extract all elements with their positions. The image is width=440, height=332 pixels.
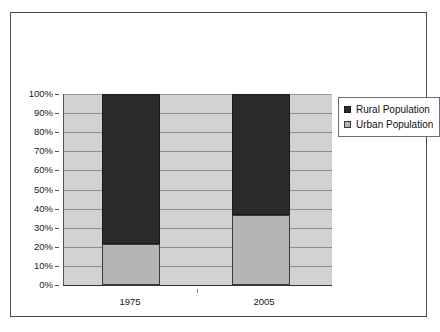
legend-label-urban: Urban Population — [356, 120, 433, 130]
y-axis-tick-mark — [55, 94, 59, 95]
y-axis-tick-label: 10% — [34, 261, 53, 271]
y-axis-tick-label: 0% — [39, 280, 53, 290]
bar-segment-rural-1975[interactable] — [102, 94, 160, 244]
y-axis-tick-label: 50% — [34, 185, 53, 195]
legend-label-rural: Rural Population — [356, 105, 430, 115]
y-axis-tick-label: 70% — [34, 147, 53, 157]
y-axis-tick-label: 80% — [34, 127, 53, 137]
x-axis-tick-mark — [197, 289, 198, 293]
y-axis-tick-mark — [55, 228, 59, 229]
bar-segment-urban-2005[interactable] — [232, 215, 290, 285]
y-axis-tick-mark — [55, 113, 59, 114]
y-axis-tick-mark — [55, 190, 59, 191]
y-axis-tick-label: 90% — [34, 108, 53, 118]
y-axis-tick-mark — [55, 151, 59, 152]
y-axis-tick-mark — [55, 170, 59, 171]
rural-swatch-icon — [344, 106, 351, 113]
x-axis-tick-label: 2005 — [253, 296, 274, 307]
y-axis-tick-mark — [55, 285, 59, 286]
y-axis-tick-label: 20% — [34, 242, 53, 252]
y-axis-tick-mark — [55, 132, 59, 133]
x-axis: 1975 2005 — [63, 289, 331, 309]
bar-segment-rural-2005[interactable] — [232, 94, 290, 215]
y-axis-tick-label: 60% — [34, 166, 53, 176]
y-axis-tick-mark — [55, 209, 59, 210]
y-axis-tick-label: 40% — [34, 204, 53, 214]
chart-legend: Rural Population Urban Population — [338, 97, 440, 137]
bar-group-1975[interactable] — [102, 94, 160, 285]
y-axis-tick-label: 30% — [34, 223, 53, 233]
y-axis-tick-mark — [55, 266, 59, 267]
y-axis: 100% 90% 80% 70% 60% 50% 40% 30% 20% 10%… — [11, 94, 59, 285]
bar-segment-urban-1975[interactable] — [102, 244, 160, 285]
chart-figure-frame: 100% 90% 80% 70% 60% 50% 40% 30% 20% 10%… — [10, 12, 427, 317]
y-axis-tick-label: 100% — [29, 89, 53, 99]
plot-area — [63, 94, 332, 286]
urban-swatch-icon — [344, 121, 351, 128]
legend-item-urban[interactable]: Urban Population — [344, 117, 433, 132]
x-axis-tick-label: 1975 — [119, 296, 140, 307]
legend-item-rural[interactable]: Rural Population — [344, 102, 433, 117]
y-axis-tick-mark — [55, 247, 59, 248]
bar-group-2005[interactable] — [232, 94, 290, 285]
